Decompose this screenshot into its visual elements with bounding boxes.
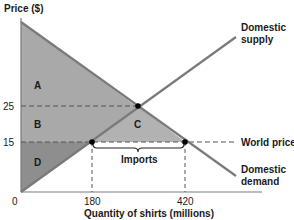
supply-label-line2: supply (241, 34, 274, 45)
y-axis-title: Price ($) (4, 3, 43, 14)
x-tick-0: 0 (12, 196, 18, 207)
imports-bracket (93, 144, 184, 152)
supply-at-world-price-point (89, 139, 95, 145)
y-tick-25: 25 (3, 101, 15, 112)
x-tick-180: 180 (84, 196, 101, 207)
region-b-label: B (34, 119, 41, 130)
demand-label-line2: demand (241, 176, 279, 187)
world-price-label: World price (241, 137, 294, 148)
supply-label-line1: Domestic (241, 22, 286, 33)
y-tick-15: 15 (3, 137, 15, 148)
demand-at-world-price-point (182, 139, 188, 145)
x-axis-title: Quantity of shirts (millions) (84, 208, 214, 219)
region-a-label: A (34, 80, 41, 91)
region-d-label: D (34, 157, 41, 168)
demand-label-line1: Domestic (241, 164, 286, 175)
region-c-label: C (134, 119, 141, 130)
x-tick-420: 420 (177, 196, 194, 207)
import-chart: A B C D Price ($) 25 15 0 180 420 Quanti… (0, 0, 294, 220)
imports-label: Imports (121, 154, 158, 165)
equilibrium-point (135, 103, 141, 109)
